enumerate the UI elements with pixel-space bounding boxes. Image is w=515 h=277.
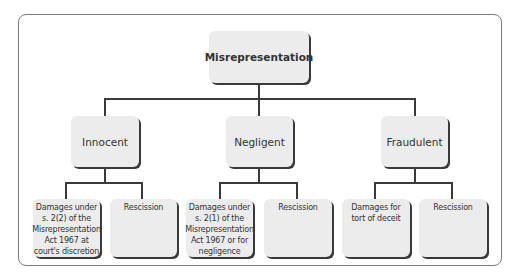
leaf-label: Damages under s. 2(2) of the Misrepresen…	[32, 202, 101, 257]
leaf-negligent-damages: Damages under s. 2(1) of the Misrepresen…	[186, 199, 253, 257]
connector-root-down	[258, 83, 260, 98]
leaf-label: Damages for tort of deceit	[342, 202, 410, 224]
leaf-label: Rescission	[433, 202, 472, 213]
node-label: Innocent	[82, 136, 128, 148]
node-negligent: Negligent	[226, 116, 293, 167]
connector-negligent-leaf2	[296, 182, 298, 199]
connector-fraudulent-up	[414, 98, 416, 116]
node-label: Negligent	[234, 136, 285, 148]
connector-fraudulent-down	[414, 167, 416, 183]
connector-branch-bar	[104, 98, 415, 100]
leaf-negligent-rescission: Rescission	[264, 199, 332, 257]
node-label: Misrepresentation	[205, 51, 314, 63]
connector-innocent-down	[104, 167, 106, 183]
connector-fraudulent-bar	[374, 182, 452, 184]
leaf-fraudulent-damages: Damages for tort of deceit	[342, 199, 410, 257]
connector-innocent-leaf2	[141, 182, 143, 199]
leaf-label: Rescission	[124, 202, 163, 213]
connector-negligent-down	[258, 167, 260, 183]
connector-negligent-leaf1	[219, 182, 221, 199]
connector-innocent-bar	[65, 182, 142, 184]
leaf-label: Damages under s. 2(1) of the Misrepresen…	[185, 202, 254, 257]
connector-negligent-bar	[219, 182, 297, 184]
node-fraudulent: Fraudulent	[381, 116, 448, 167]
node-innocent: Innocent	[71, 116, 139, 167]
connector-negligent-up	[258, 98, 260, 116]
connector-fraudulent-leaf2	[451, 182, 453, 199]
leaf-label: Rescission	[278, 202, 317, 213]
connector-innocent-up	[104, 98, 106, 116]
leaf-fraudulent-rescission: Rescission	[419, 199, 487, 257]
node-misrepresentation: Misrepresentation	[209, 31, 309, 83]
leaf-innocent-damages: Damages under s. 2(2) of the Misrepresen…	[33, 199, 100, 257]
node-label: Fraudulent	[386, 136, 442, 148]
connector-fraudulent-leaf1	[374, 182, 376, 199]
leaf-innocent-rescission: Rescission	[110, 199, 177, 257]
connector-innocent-leaf1	[65, 182, 67, 199]
